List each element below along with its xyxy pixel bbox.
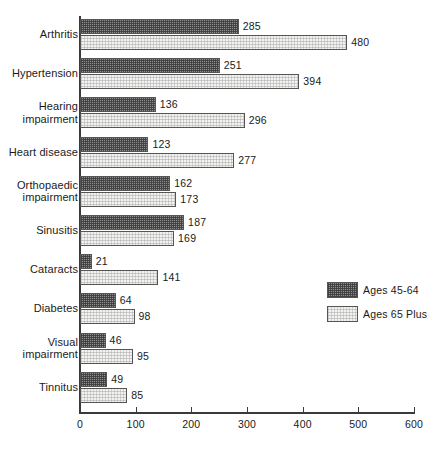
x-tick-500 (358, 407, 359, 413)
x-tick-label-100: 100 (127, 418, 145, 430)
bar-senior (80, 74, 299, 89)
category-label-line: Hypertension (12, 67, 78, 79)
x-tick-label-500: 500 (349, 418, 367, 430)
category-label-line: impairment (23, 113, 78, 125)
category-label: Hearingimpairment (0, 100, 78, 125)
category-label: Diabetes (0, 302, 78, 315)
bar-value-label: 123 (152, 137, 170, 152)
category-label-line: Orthopaedic (17, 179, 78, 191)
bar-value-label: 85 (131, 388, 143, 403)
bar-value-label: 46 (110, 333, 122, 348)
bar-value-label: 136 (160, 97, 178, 112)
category-label-line: Heart disease (9, 146, 78, 158)
bar-senior (80, 231, 174, 246)
bar-value-label: 64 (120, 293, 132, 308)
bar-senior (80, 270, 158, 285)
category-label: Hypertension (0, 67, 78, 80)
category-label-line: Tinnitus (39, 381, 78, 393)
bar-value-label: 173 (180, 192, 198, 207)
bar-group: Hearingimpairment136296 (0, 97, 444, 129)
bar-value-label: 141 (162, 270, 180, 285)
bar-group: Hypertension251394 (0, 58, 444, 90)
legend-label-ages-65-plus: Ages 65 Plus (363, 305, 427, 323)
category-label: Sinusitis (0, 224, 78, 237)
bar-senior (80, 192, 176, 207)
category-label: Arthritis (0, 28, 78, 41)
bar-value-label: 394 (303, 74, 321, 89)
bar-value-label: 277 (238, 153, 256, 168)
bar-value-label: 98 (139, 309, 151, 324)
bar-older (80, 19, 239, 34)
bar-older (80, 372, 107, 387)
bar-group: Tinnitus4985 (0, 372, 444, 404)
category-label-line: Diabetes (34, 302, 78, 314)
legend-item-ages-65-plus: Ages 65 Plus (327, 305, 439, 329)
x-tick-label-200: 200 (182, 418, 200, 430)
bar-senior (80, 113, 245, 128)
bar-older (80, 137, 148, 152)
bar-group: Visualimpairment4695 (0, 333, 444, 365)
bar-value-label: 296 (249, 113, 267, 128)
bar-senior (80, 35, 347, 50)
bar-chart: 0100200300400500600 Arthritis285480Hyper… (0, 0, 444, 452)
bar-value-label: 95 (137, 349, 149, 364)
category-label: Cataracts (0, 263, 78, 276)
bar-group: Heart disease123277 (0, 137, 444, 169)
legend-swatch-ages-65-plus (327, 306, 358, 322)
x-tick-label-0: 0 (77, 418, 83, 430)
category-label-line: Arthritis (40, 28, 78, 40)
bar-value-label: 21 (96, 254, 108, 269)
bar-older (80, 254, 92, 269)
bar-senior (80, 309, 135, 324)
bar-older (80, 215, 184, 230)
bar-senior (80, 388, 127, 403)
bar-value-label: 49 (111, 372, 123, 387)
bar-value-label: 169 (178, 231, 196, 246)
x-tick-label-400: 400 (294, 418, 312, 430)
category-label: Heart disease (0, 146, 78, 159)
bar-senior (80, 153, 234, 168)
category-label: Visualimpairment (0, 336, 78, 361)
x-tick-label-300: 300 (238, 418, 256, 430)
x-tick-label-600: 600 (405, 418, 423, 430)
x-tick-600 (414, 407, 415, 413)
category-label-line: Hearing (39, 100, 78, 112)
bar-older (80, 333, 106, 348)
category-label-line: impairment (23, 191, 78, 203)
bar-group: Arthritis285480 (0, 19, 444, 51)
category-label-line: Cataracts (30, 263, 78, 275)
bar-senior (80, 349, 133, 364)
category-label: Orthopaedicimpairment (0, 179, 78, 204)
bar-value-label: 162 (174, 176, 192, 191)
x-tick-200 (191, 407, 192, 413)
bar-older (80, 97, 156, 112)
legend-swatch-ages-45-64 (327, 282, 358, 298)
bar-older (80, 293, 116, 308)
x-tick-400 (303, 407, 304, 413)
x-tick-300 (247, 407, 248, 413)
bar-group: Sinusitis187169 (0, 215, 444, 247)
category-label: Tinnitus (0, 381, 78, 394)
legend-item-ages-45-64: Ages 45-64 (327, 281, 439, 305)
category-label-line: Sinusitis (36, 224, 78, 236)
bar-value-label: 251 (224, 58, 242, 73)
x-tick-0 (80, 407, 81, 413)
bar-value-label: 480 (351, 35, 369, 50)
bar-group: Orthopaedicimpairment162173 (0, 176, 444, 208)
bar-older (80, 176, 170, 191)
legend-label-ages-45-64: Ages 45-64 (363, 281, 419, 299)
plot-area: 0100200300400500600 Arthritis285480Hyper… (0, 0, 444, 452)
bar-value-label: 187 (188, 215, 206, 230)
category-label-line: impairment (23, 348, 78, 360)
category-label-line: Visual (48, 336, 78, 348)
chart-legend: Ages 45-64 Ages 65 Plus (327, 281, 439, 329)
x-tick-100 (136, 407, 137, 413)
bar-value-label: 285 (243, 19, 261, 34)
bar-older (80, 58, 220, 73)
